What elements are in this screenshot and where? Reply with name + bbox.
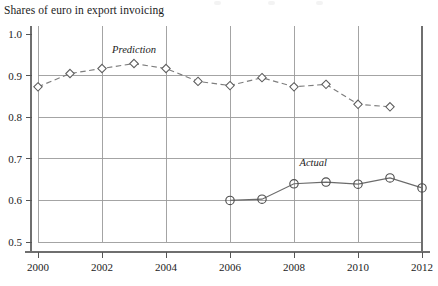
vertical-gridlines xyxy=(38,26,422,242)
data-point-prediction-2009 xyxy=(322,80,330,88)
y-axis-label-0.5: 0.5 xyxy=(8,236,22,248)
annotation-actual: Actual xyxy=(298,157,326,168)
y-axis-label-0.6: 0.6 xyxy=(8,194,22,206)
data-point-prediction-2001 xyxy=(66,69,74,77)
data-point-prediction-2010 xyxy=(354,100,362,108)
x-axis-label-2008: 2008 xyxy=(283,261,306,273)
x-axis-label-2004: 2004 xyxy=(155,261,178,273)
data-point-prediction-2002 xyxy=(98,64,106,72)
series-line-prediction xyxy=(38,64,390,107)
data-point-prediction-2006 xyxy=(226,81,234,89)
tick-marks xyxy=(26,34,422,258)
x-axis-label-2006: 2006 xyxy=(219,261,242,273)
x-axis-tick-labels: 2000200220042006200820102012 xyxy=(27,261,433,273)
x-axis-label-2002: 2002 xyxy=(91,261,113,273)
y-axis-label-0.8: 0.8 xyxy=(8,111,22,123)
data-point-prediction-2005 xyxy=(194,77,202,85)
data-point-prediction-2011 xyxy=(386,103,394,111)
x-axis-label-2000: 2000 xyxy=(27,261,50,273)
y-axis-label-0.9: 0.9 xyxy=(8,70,22,82)
series-annotations: PredictionActual xyxy=(111,44,327,168)
y-axis-tick-labels: 1.00.90.80.70.60.5 xyxy=(8,28,22,248)
x-axis-label-2012: 2012 xyxy=(411,261,433,273)
plot-area: 1.00.90.80.70.60.5 200020022004200620082… xyxy=(0,0,438,286)
data-point-prediction-2004 xyxy=(162,64,170,72)
chart-figure: Shares of euro in export invoicing 1.00.… xyxy=(0,0,438,286)
data-point-prediction-2007 xyxy=(258,73,266,81)
annotation-prediction: Prediction xyxy=(111,44,156,55)
data-point-prediction-2003 xyxy=(130,59,138,67)
y-axis-label-0.7: 0.7 xyxy=(8,153,22,165)
y-axis-label-1.0: 1.0 xyxy=(8,28,22,40)
x-axis-label-2010: 2010 xyxy=(347,261,370,273)
data-point-prediction-2008 xyxy=(290,83,298,91)
axis-lines xyxy=(25,26,430,252)
data-point-prediction-2000 xyxy=(34,83,42,91)
